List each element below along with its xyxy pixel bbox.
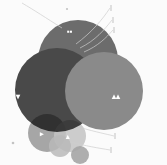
leader-line-top-left <box>22 3 62 28</box>
diagram-svg: ▪▪ ▾ ▴▴ ▸ ▴ <box>0 0 167 165</box>
dot-marker-top-center <box>66 8 68 10</box>
venn-sets-group <box>15 20 143 132</box>
satellite-label-center: ▴ <box>65 133 70 140</box>
venn-diagram-canvas: ▪▪ ▾ ▴▴ ▸ ▴ <box>0 0 167 165</box>
dot-marker-left-bottom <box>12 142 15 145</box>
satellite-label-left: ▸ <box>39 130 44 137</box>
set-circle-right[interactable] <box>65 52 143 130</box>
satellite-circle-far[interactable] <box>71 146 89 164</box>
set-label-right: ▴▴ <box>111 92 121 101</box>
set-label-top: ▪▪ <box>67 27 73 36</box>
